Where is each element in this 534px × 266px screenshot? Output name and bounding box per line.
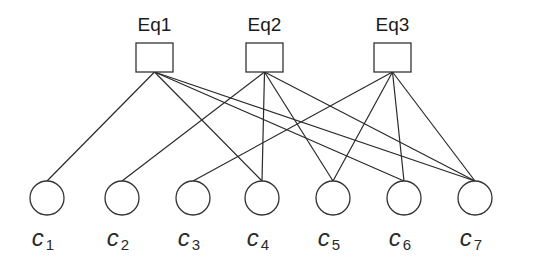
- variable-node-c2: c2: [105, 181, 139, 253]
- check-node-box: [136, 43, 173, 72]
- edges-layer: [47, 72, 475, 181]
- edge-eq3-c6: [393, 72, 405, 181]
- variable-node-circle: [176, 181, 210, 215]
- variable-node-circle: [245, 181, 279, 215]
- edge-eq2-c5: [265, 72, 334, 181]
- check-node-box: [374, 43, 411, 72]
- bipartite-graph: Eq1Eq2Eq3 c1c2c3c4c5c6c7: [0, 0, 534, 266]
- variable-node-circle: [387, 181, 421, 215]
- edge-eq1-c4: [155, 72, 263, 181]
- variable-nodes-layer: c1c2c3c4c5c6c7: [30, 181, 492, 253]
- variable-node-c3: c3: [176, 181, 210, 253]
- check-node-label: Eq3: [376, 14, 410, 35]
- variable-node-label: c4: [247, 224, 269, 253]
- variable-node-label: c2: [107, 224, 129, 253]
- edge-eq2-c7: [265, 72, 476, 181]
- edge-eq1-c6: [155, 72, 405, 181]
- check-node-box: [246, 43, 283, 72]
- edge-eq1-c7: [155, 72, 476, 181]
- variable-node-circle: [316, 181, 350, 215]
- variable-node-c5: c5: [316, 181, 350, 253]
- check-node-eq3: Eq3: [374, 14, 411, 72]
- variable-node-label: c6: [389, 224, 411, 253]
- edge-eq2-c4: [262, 72, 265, 181]
- variable-node-label: c5: [318, 224, 340, 253]
- check-node-label: Eq2: [248, 14, 282, 35]
- variable-node-c7: c7: [458, 181, 492, 253]
- edge-eq3-c7: [393, 72, 476, 181]
- check-node-label: Eq1: [138, 14, 172, 35]
- check-node-eq1: Eq1: [136, 14, 173, 72]
- variable-node-c1: c1: [30, 181, 64, 253]
- check-nodes-layer: Eq1Eq2Eq3: [136, 14, 411, 72]
- variable-node-circle: [30, 181, 64, 215]
- edge-eq1-c1: [47, 72, 155, 181]
- check-node-eq2: Eq2: [246, 14, 283, 72]
- variable-node-label: c7: [460, 224, 482, 253]
- variable-node-circle: [105, 181, 139, 215]
- variable-node-c6: c6: [387, 181, 421, 253]
- variable-node-c4: c4: [245, 181, 279, 253]
- variable-node-circle: [458, 181, 492, 215]
- variable-node-label: c3: [178, 224, 200, 253]
- variable-node-label: c1: [32, 224, 54, 253]
